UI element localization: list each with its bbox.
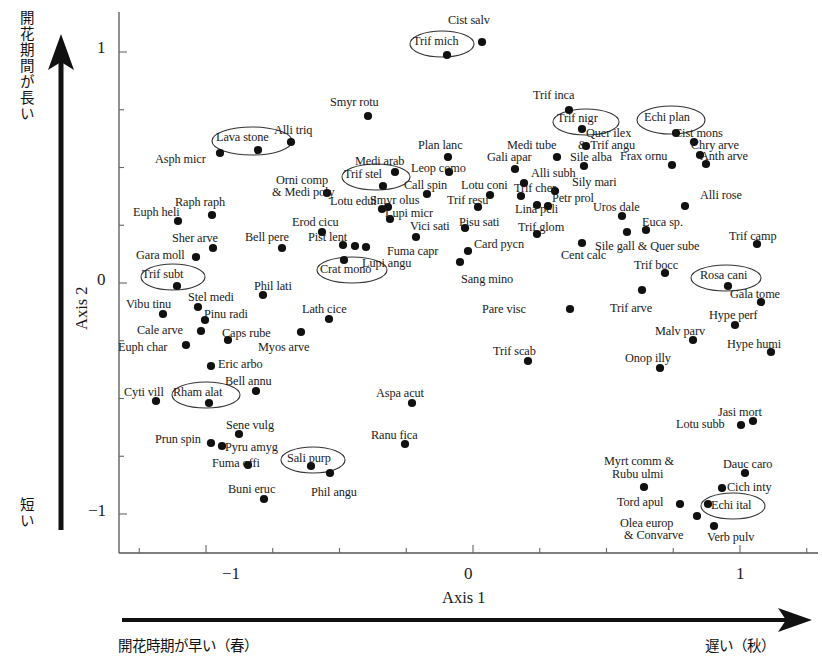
point-label: Buni eruc	[228, 483, 275, 496]
point-label: Trif glom	[518, 221, 564, 234]
point-label: Anth arve	[700, 150, 748, 163]
data-point[interactable]: Trif subt (-1.205, 0)	[173, 282, 181, 290]
point-label: Lina peli	[515, 203, 558, 216]
point-label: Vibu tinu	[126, 298, 171, 311]
point-label: Lotu subb	[676, 418, 725, 431]
data-point[interactable]: Aspa acut (-0.315, -0.225)	[408, 399, 416, 407]
data-point[interactable]: Medi tube (0.23, 0.415)	[553, 153, 561, 161]
data-point[interactable]: Bell pere (-0.83, 0.215)	[278, 244, 286, 252]
point-label: Cent calc	[561, 249, 606, 262]
point-label: Leop como	[411, 162, 466, 175]
point-label: Lotu edul	[330, 195, 377, 208]
data-point[interactable]: Vici sati (-0.38, 0.25)	[412, 233, 420, 241]
point-label: Sene vulg	[226, 419, 274, 432]
point-label: Hype perf	[709, 309, 758, 322]
point-label: Lotu coni	[461, 179, 508, 192]
data-point[interactable]: Euph char (-1.265, -0.14)	[182, 341, 190, 349]
point-label: Myrt comm &	[604, 455, 674, 468]
data-point[interactable]: Lava stone (-0.93, 0.455)	[254, 146, 262, 154]
data-point[interactable]: Asph micr (-1.055, 0.425)	[216, 149, 224, 157]
point-label: Stel medi	[188, 291, 234, 304]
point-label: Gara moll	[136, 249, 185, 262]
point-label: Smyr olus	[370, 194, 419, 207]
data-point[interactable]: Medi arab (-0.485, 0.4)	[391, 168, 399, 176]
point-label: Trif resu	[447, 194, 488, 207]
data-point[interactable]: Trif stel (-0.44, 0.355)	[379, 182, 387, 190]
point-label: Cyti vill	[124, 386, 164, 399]
point-label: Prun spin	[155, 433, 201, 446]
data-point[interactable]: Olea europ (0.76, -0.47)	[693, 512, 701, 520]
data-point[interactable]: Gali apar (0.12, 0.39)	[511, 165, 519, 173]
point-label: Pisu sati	[459, 216, 499, 229]
point-label: Lath cice	[302, 303, 347, 316]
point-label: Sily mari	[572, 176, 617, 189]
point-label: Sile gall & Quer sube	[595, 240, 699, 253]
point-label: Alli subh	[531, 167, 576, 180]
point-label: Cist salv	[448, 14, 490, 27]
point-label: Euca sp.	[642, 216, 683, 229]
point-label: Sher arve	[172, 232, 218, 245]
point-label: Call spin	[404, 179, 447, 192]
data-point[interactable]: Cent calc (0.33, 0.175)	[578, 239, 586, 247]
data-point[interactable]: Cist salv (-0.055, 1.05)	[478, 38, 486, 46]
point-label: Trif camp	[729, 230, 777, 243]
data-point[interactable]: Gara moll (-1.235, 0.185)	[192, 253, 200, 261]
point-label: Vici sati	[410, 220, 450, 233]
point-label: Aspa acut	[376, 387, 424, 400]
data-point[interactable]: Bell annu (-0.95, -0.205)	[252, 387, 260, 395]
data-point[interactable]: Fuma capr (-0.435, 0.19)	[362, 243, 370, 251]
data-point[interactable]: Buni eruc (-1, -0.455)	[260, 495, 268, 503]
data-point[interactable]: Card pycn (-0.255, 0.215)	[464, 247, 472, 255]
point-label: Plan lanc	[418, 139, 463, 152]
data-point[interactable]: Myrt comm & (0.575, -0.375)	[640, 483, 648, 491]
point-label: Eric arbo	[218, 358, 263, 371]
data-point[interactable]: Sang mino (-0.215, 0.095)	[456, 258, 464, 266]
data-point[interactable]: Alli triq (-0.775, 0.455)	[287, 138, 295, 146]
data-point[interactable]: Hype perf (0.97, -0.075)	[731, 321, 739, 329]
point-label: Sang mino	[461, 273, 513, 286]
point-label: Gala tome	[730, 288, 780, 301]
data-point[interactable]: Plan lanc (-0.175, 0.415)	[444, 153, 452, 161]
data-point[interactable]: Lotu subb (0.965, -0.29)	[737, 421, 745, 429]
data-point[interactable]: Trif mich (-0.195, 0.93)	[443, 51, 451, 59]
point-label: Phil lati	[254, 280, 292, 293]
point-label: Crat mono	[320, 263, 371, 276]
point-label: Echi ital	[711, 499, 751, 512]
data-point[interactable]: Phil angu (-0.665, -0.4)	[326, 469, 334, 477]
data-point[interactable]: Onop illy (0.78, -0.175)	[656, 364, 664, 372]
data-point[interactable]: Cich inty (0.88, -0.425)	[718, 484, 726, 492]
point-label: Alli rose	[700, 189, 742, 202]
data-point[interactable]: Smyr rotu (-0.425, 0.575)	[364, 112, 372, 120]
data-point[interactable]: Lupi angu (-0.53, 0.175)	[351, 242, 359, 250]
data-point[interactable]: Tord apul (0.7, -0.43)	[676, 500, 684, 508]
point-label: Frax ornu	[620, 150, 667, 163]
data-point[interactable]: Eric arbo (-1.015, -0.17)	[207, 362, 215, 370]
data-point[interactable]: Verb pulv (0.845, -0.49)	[710, 522, 718, 530]
data-point[interactable]: Prun spin (-1.115, -0.32)	[207, 439, 215, 447]
point-label: Trif bocc	[634, 259, 678, 272]
data-point[interactable]: Vibu tinu (-1.28, -0.055)	[159, 310, 167, 318]
data-point[interactable]: Trif arve (0.61, -0.06)	[638, 286, 646, 294]
data-point[interactable]: Trif nigr (0.395, 0.5)	[578, 125, 586, 133]
point-label: Pyru amyg	[225, 441, 278, 454]
point-label: Cich inty	[727, 481, 772, 494]
point-label: Euph heli	[133, 206, 180, 219]
data-point[interactable]: Raph raph (-1.115, 0.295)	[208, 211, 216, 219]
point-label: Medi arab	[355, 155, 404, 168]
point-label: Fuma offi	[212, 457, 260, 470]
data-point[interactable]: Myos arve (-0.85, -0.135)	[297, 328, 305, 336]
point-label: Trif scab	[493, 345, 536, 358]
point-label: Petr prol	[552, 192, 594, 205]
point-label: Erod cicu	[292, 216, 339, 229]
data-point[interactable]: Trif scab (-0.225, -0.165)	[524, 357, 532, 365]
data-point[interactable]: Sher arve (-1.18, 0.225)	[209, 244, 217, 252]
data-point[interactable]: Sile gall & Quer sube (0.47, 0.23)	[623, 228, 631, 236]
data-point[interactable]: Pare visc (0.215, -0.065)	[566, 305, 574, 313]
data-point[interactable]: Lath cice (-0.665, -0.075)	[325, 315, 333, 323]
point-label: Smyr rotu	[330, 96, 379, 109]
data-point[interactable]: Alli rose (0.845, 0.32)	[681, 202, 689, 210]
data-point[interactable]: Stel medi (-1.11, -0.06)	[194, 303, 202, 311]
data-point[interactable]: Cale arve (-1.18, -0.115)	[197, 327, 205, 335]
data-point[interactable]: Frax ornu (0.61, 0.405)	[668, 161, 676, 169]
data-point[interactable]: Rham alat (-1.06, -0.225)	[205, 399, 213, 407]
